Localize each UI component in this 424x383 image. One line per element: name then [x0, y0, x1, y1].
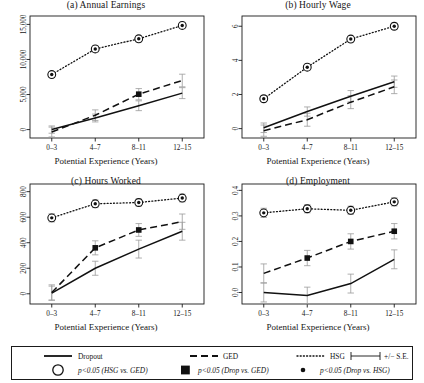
panel-b-plot: 02460–34–78–1112–15 [212, 0, 424, 176]
sig-marker-drop-vs-ged [136, 91, 142, 97]
panel-annual-earnings: (a) Annual Earnings 05,00010,00015,0000–… [0, 0, 212, 176]
y-tick-label: 0.3 [232, 211, 240, 220]
y-tick-label: 4 [232, 58, 240, 62]
series-line-dropout [264, 82, 395, 128]
sig-marker-drop-vs-hsg [48, 214, 56, 222]
y-tick-label: 0 [20, 127, 28, 131]
legend-dot-marker-icon [301, 368, 306, 373]
sig-marker-drop-vs-ged [391, 228, 397, 234]
sig-marker-drop-vs-hsg [347, 206, 355, 214]
series-line-hsg [264, 202, 395, 213]
x-tick-label: 0–3 [258, 310, 269, 318]
panel-hourly-wage: (b) Hourly Wage 02460–34–78–1112–15 Pote… [212, 0, 424, 176]
sig-marker-drop-vs-hsg [347, 35, 355, 43]
sig-marker-drop-vs-hsg [303, 63, 311, 71]
panel-employment: (d) Employment 0.00.10.20.30.40–34–78–11… [212, 176, 424, 342]
y-tick-label: 5,000 [20, 86, 28, 103]
sig-marker-drop-vs-hsg [135, 35, 143, 43]
y-tick-label: 6 [232, 24, 240, 28]
x-tick-label: 12–15 [173, 144, 191, 152]
series-line-ged [264, 87, 395, 131]
y-tick-label: 0.4 [232, 185, 240, 194]
sig-marker-drop-vs-hsg [260, 95, 268, 103]
series-line-dropout [52, 231, 183, 293]
sig-marker-drop-vs-hsg [390, 198, 398, 206]
y-tick-label: 0 [20, 292, 28, 296]
sig-marker-drop-vs-hsg [91, 200, 99, 208]
panel-a-plot: 05,00010,00015,0000–34–78–1112–15 [0, 0, 212, 176]
panel-c-xlabel: Potential Experience (Years) [0, 322, 212, 332]
x-tick-label: 8–11 [344, 144, 359, 152]
y-tick-label: 0.2 [232, 237, 240, 246]
sig-marker-drop-vs-ged [136, 227, 142, 233]
sig-marker-drop-vs-hsg [390, 22, 398, 30]
sig-marker-drop-vs-hsg [48, 71, 56, 79]
x-tick-label: 4–7 [90, 310, 101, 318]
y-tick-label: 0.1 [232, 262, 240, 271]
sig-marker-drop-vs-hsg [135, 199, 143, 207]
x-tick-label: 12–15 [385, 144, 403, 152]
legend-label-sig-drop-hsg: p<0.05 (Drop vs. HSG) [320, 366, 390, 375]
y-tick-label: 600 [20, 211, 28, 222]
y-tick-label: 400 [20, 237, 28, 248]
x-tick-label: 0–3 [46, 144, 57, 152]
x-tick-label: 8–11 [132, 310, 147, 318]
sig-marker-drop-vs-hsg [91, 45, 99, 53]
y-tick-label: 0 [232, 126, 240, 130]
legend-label-sig-hsg-ged: p<0.05 (HSG vs. GED) [78, 366, 148, 375]
x-tick-label: 0–3 [258, 144, 269, 152]
x-tick-label: 12–15 [173, 310, 191, 318]
sig-marker-drop-vs-ged [92, 245, 98, 251]
x-tick-label: 8–11 [132, 144, 147, 152]
panel-d-plot: 0.00.10.20.30.40–34–78–1112–15 [212, 176, 424, 342]
panel-hours-worked: (c) Hours Worked 02004006008000–34–78–11… [0, 176, 212, 342]
sig-marker-drop-vs-hsg [178, 194, 186, 202]
x-tick-label: 0–3 [46, 310, 57, 318]
sig-marker-drop-vs-ged [348, 239, 354, 245]
x-tick-label: 8–11 [344, 310, 359, 318]
series-line-hsg [52, 198, 183, 218]
panel-b-xlabel: Potential Experience (Years) [212, 156, 424, 166]
y-tick-label: 200 [20, 262, 28, 273]
legend-label-sig-drop-ged: p<0.05 (Drop vs. GED) [198, 366, 269, 375]
y-tick-label: 800 [20, 186, 28, 197]
figure-container: (a) Annual Earnings 05,00010,00015,0000–… [0, 0, 424, 383]
x-tick-label: 4–7 [302, 144, 313, 152]
sig-marker-drop-vs-hsg [303, 205, 311, 213]
legend-box: Dropout GED HSG +/− S.E. p<0.05 (HSG vs.… [11, 346, 413, 380]
x-tick-label: 4–7 [90, 144, 101, 152]
sig-marker-drop-vs-ged [304, 255, 310, 261]
error-bar [179, 214, 185, 229]
y-tick-label: 2 [232, 92, 240, 96]
panel-a-xlabel: Potential Experience (Years) [0, 156, 212, 166]
x-tick-label: 12–15 [385, 310, 403, 318]
x-tick-label: 4–7 [302, 310, 313, 318]
sig-marker-drop-vs-hsg [178, 22, 186, 30]
series-line-dropout [52, 93, 183, 129]
legend-label-ged: GED [223, 352, 238, 361]
legend-circle-marker-icon [53, 365, 63, 375]
sig-marker-drop-vs-hsg [260, 209, 268, 217]
y-tick-label: 10,000 [20, 49, 28, 69]
y-tick-label: 0.0 [232, 288, 240, 297]
series-line-dropout [264, 259, 395, 295]
panel-c-plot: 02004006008000–34–78–1112–15 [0, 176, 212, 342]
panel-d-xlabel: Potential Experience (Years) [212, 322, 424, 332]
y-tick-label: 15,000 [20, 14, 28, 34]
legend-square-marker-icon [181, 366, 190, 375]
legend-label-se: +/− S.E. [384, 352, 409, 361]
series-line-ged [264, 231, 395, 273]
legend-label-hsg: HSG [330, 352, 345, 361]
series-line-hsg [52, 25, 183, 74]
legend-label-dropout: Dropout [78, 352, 103, 361]
